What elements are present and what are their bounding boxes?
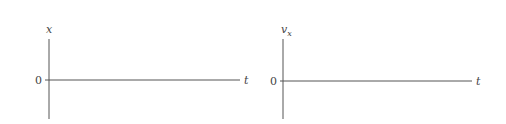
origin-label: 0 xyxy=(35,74,42,87)
x-axis-label: t xyxy=(476,75,481,88)
x-axis-label: t xyxy=(244,74,249,87)
kinematics-graphs: x 0 t vx 0 t xyxy=(0,0,506,124)
y-axis-label: vx xyxy=(281,23,292,38)
y-axis-label: x xyxy=(46,23,53,36)
origin-label: 0 xyxy=(270,75,277,88)
position-time-graph: x 0 t xyxy=(35,23,249,119)
velocity-time-graph: vx 0 t xyxy=(270,23,481,119)
